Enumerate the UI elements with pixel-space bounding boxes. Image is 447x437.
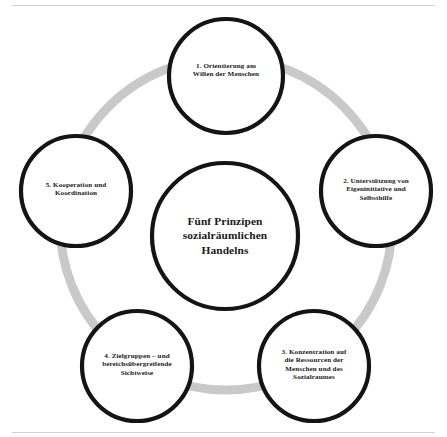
node-circle-1[interactable] xyxy=(169,19,283,133)
node-circle-4[interactable] xyxy=(82,311,192,421)
node-circle-3[interactable] xyxy=(259,311,369,421)
center-circle[interactable] xyxy=(152,163,298,309)
node-circle-5[interactable] xyxy=(21,136,131,246)
diagram-canvas: 1. Orientierung am Willen der Menschen 2… xyxy=(0,0,447,437)
cycle-diagram-graphic xyxy=(0,0,447,437)
node-circle-2[interactable] xyxy=(321,136,431,246)
